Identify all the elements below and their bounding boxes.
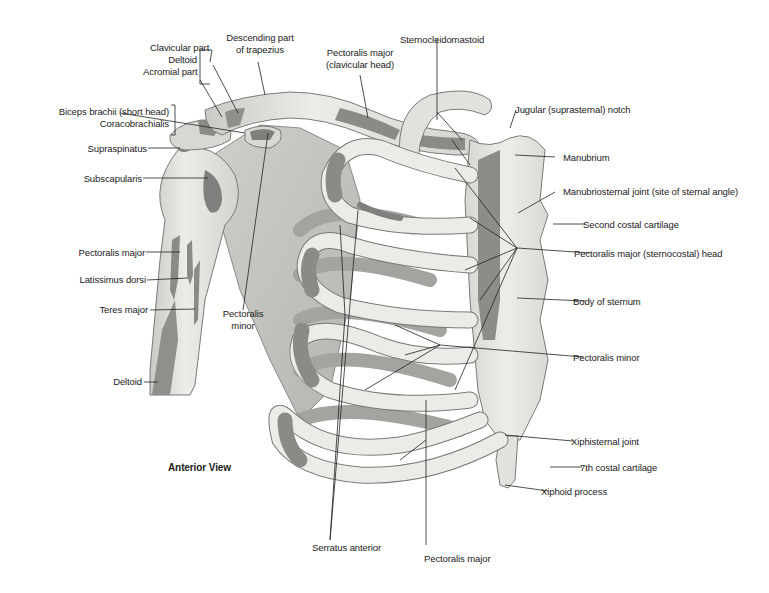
label-biceps-short-head: Biceps brachii (short head) <box>20 106 169 117</box>
label-acromial-part: Acromial part <box>143 66 198 77</box>
label-second-costal-cartilage: Second costal cartilage <box>583 219 679 230</box>
thorax-shoulder-illustration <box>0 0 769 593</box>
anatomy-diagram: Deltoid Clavicular part Acromial part De… <box>0 0 769 593</box>
view-title: Anterior View <box>168 462 231 473</box>
label-pectoralis-minor-right: Pectoralis minor <box>573 352 640 363</box>
label-manubriosternal-joint: Manubriosternal joint (site of sternal a… <box>563 186 738 197</box>
humerus <box>150 146 238 395</box>
label-pectoralis-major-arm: Pectoralis major <box>20 247 145 258</box>
label-xiphoid-process: Xiphoid process <box>541 486 607 497</box>
label-clavicular-part: Clavicular part <box>150 42 209 53</box>
label-deltoid-arm: Deltoid <box>20 376 142 387</box>
label-teres-major: Teres major <box>20 304 148 315</box>
label-pec-major-sternocostal: Pectoralis major (sternocostal) head <box>574 248 722 259</box>
label-pectoralis-major-bottom: Pectoralis major <box>424 553 491 564</box>
label-pec-major-clavicular-l1: Pectoralis major <box>315 47 405 58</box>
label-coracobrachialis: Coracobrachialis <box>20 118 169 129</box>
label-pectoralis-minor-center-l2: minor <box>215 320 271 331</box>
label-subscapularis: Subscapularis <box>20 173 142 184</box>
label-latissimus-dorsi: Latissimus dorsi <box>20 274 146 285</box>
label-manubrium: Manubrium <box>563 152 610 163</box>
label-jugular-notch: Jugular (suprasternal) notch <box>515 104 630 115</box>
label-pec-major-clavicular-l2: (clavicular head) <box>315 59 405 70</box>
label-serratus-anterior: Serratus anterior <box>312 542 381 553</box>
label-sternocleidomastoid: Sternocleidomastoid <box>400 34 484 45</box>
label-descending-trapezius-l2: of trapezius <box>215 44 305 55</box>
label-descending-trapezius-l1: Descending part <box>215 32 305 43</box>
label-xiphisternal-joint: Xiphisternal joint <box>571 436 639 447</box>
label-deltoid-group: Deltoid <box>82 54 197 65</box>
label-body-of-sternum: Body of sternum <box>573 296 641 307</box>
label-pectoralis-minor-center-l1: Pectoralis <box>215 308 271 319</box>
label-seventh-costal-cartilage: 7th costal cartilage <box>580 462 657 473</box>
label-supraspinatus: Supraspinatus <box>20 143 147 154</box>
